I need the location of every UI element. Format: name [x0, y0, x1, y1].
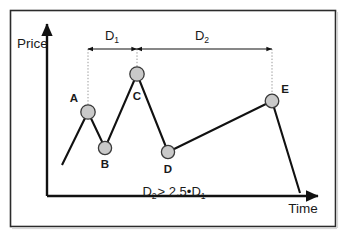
measure-label-d2-base: D [195, 28, 204, 43]
equation-right-sub: 1 [201, 191, 206, 201]
measure-label-d1-sub: 1 [114, 35, 119, 45]
data-point-label-e: E [281, 83, 289, 95]
data-point-label-b: B [101, 158, 109, 170]
data-point-a [81, 105, 95, 119]
data-point-c [130, 67, 144, 81]
measure-label-d2-sub: 2 [204, 35, 209, 45]
equation-operator: > 2.5• [158, 184, 192, 199]
equation-right: D [191, 184, 200, 199]
data-point-b [98, 141, 111, 154]
measure-label-d1-base: D [105, 28, 114, 43]
y-axis-label: Price [17, 36, 48, 51]
figure-root: Price Time D1 D2 [0, 0, 348, 245]
data-point-label-a: A [70, 92, 78, 104]
data-point-label-d: D [164, 163, 172, 175]
equation-left: D [142, 184, 151, 199]
frame-shadow-right [337, 12, 339, 228]
frame-shadow-bottom [12, 228, 337, 230]
data-point-e [265, 94, 279, 108]
equation-left-sub: 2 [152, 191, 157, 201]
data-point-label-c: C [133, 90, 141, 102]
data-point-d [161, 145, 174, 158]
price-time-diagram: Price Time D1 D2 [0, 0, 348, 245]
x-axis-label: Time [288, 201, 318, 216]
